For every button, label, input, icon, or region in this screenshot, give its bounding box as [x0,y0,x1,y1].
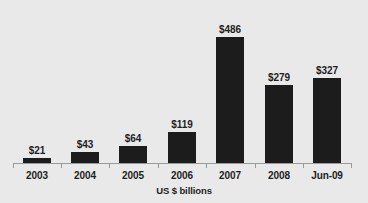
x-axis-title: US $ billions [0,185,368,196]
bar-value-label: $64 [125,133,141,144]
bar[interactable] [71,152,99,163]
bar-group-5[interactable]: $279 [255,8,303,163]
x-axis-category-labels: 2003 2004 2005 2006 2007 2008 Jun-09 [13,170,352,184]
x-axis-tick-label: Jun-09 [303,170,351,181]
bar-group-3[interactable]: $119 [158,8,206,163]
x-axis-tick-label: 2006 [158,170,206,181]
bar-value-label: $43 [77,139,93,150]
x-axis-tick [303,164,304,168]
bar-value-label: $119 [171,119,192,130]
bar[interactable] [168,132,196,163]
x-axis-tick-label: 2008 [255,170,303,181]
x-axis-tick-label: 2004 [61,170,109,181]
bar-value-label: $279 [268,72,290,83]
bar[interactable] [313,78,341,163]
x-axis-tick-label: 2003 [13,170,61,181]
bar[interactable] [119,146,147,163]
bar-group-1[interactable]: $43 [61,8,109,163]
bar-value-label: $327 [316,65,338,76]
plot-area: $21 $43 $64 $119 $486 $279 $327 [13,8,352,163]
bar-value-label: $21 [29,145,45,156]
x-axis-tick [109,164,110,168]
x-axis-line [13,163,352,164]
x-axis-tick [158,164,159,168]
bar[interactable] [216,37,244,163]
x-axis-tick-label: 2005 [109,170,157,181]
x-axis-tick [13,164,14,168]
x-axis-tick [206,164,207,168]
bar-group-0[interactable]: $21 [13,8,61,163]
bar[interactable] [265,85,293,163]
bar-value-label: $486 [219,24,241,35]
x-axis-tick [255,164,256,168]
bar-group-2[interactable]: $64 [109,8,157,163]
bar-group-6[interactable]: $327 [303,8,351,163]
x-axis-tick-label: 2007 [206,170,254,181]
x-axis-tick [351,164,352,168]
x-axis-tick [61,164,62,168]
bar-chart: $21 $43 $64 $119 $486 $279 $327 [0,0,368,203]
bar-group-4[interactable]: $486 [206,8,254,163]
